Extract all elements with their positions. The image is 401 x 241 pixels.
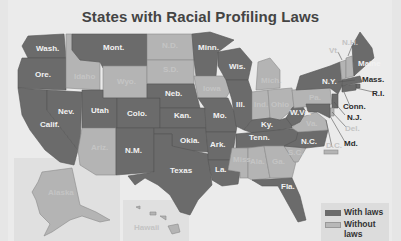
label-wva: W.Va. bbox=[290, 108, 311, 117]
label-va: Va. bbox=[306, 119, 318, 128]
label-ky: Ky. bbox=[261, 120, 273, 129]
label-ala: Ala. bbox=[250, 157, 265, 166]
label-texas: Texas bbox=[170, 166, 193, 175]
label-ariz: Ariz. bbox=[91, 143, 108, 152]
label-nd: N.D. bbox=[162, 41, 178, 50]
label-sd: S.D. bbox=[163, 65, 179, 74]
label-mo: Mo. bbox=[213, 111, 227, 120]
with-laws-swatch bbox=[325, 210, 341, 216]
label-mich: Mich. bbox=[261, 76, 281, 85]
label-pa: Pa. bbox=[309, 93, 321, 102]
label-okla: Okla. bbox=[180, 136, 200, 145]
label-mont: Mont. bbox=[103, 43, 124, 52]
label-ri: R.I. bbox=[372, 89, 384, 98]
label-ill: Ill. bbox=[236, 100, 245, 109]
label-neb: Neb. bbox=[165, 89, 182, 98]
label-dc: D.C. bbox=[326, 141, 342, 150]
label-utah: Utah bbox=[91, 106, 109, 115]
label-kan: Kan. bbox=[174, 111, 191, 120]
state-dc-box bbox=[324, 150, 338, 154]
label-conn: Conn. bbox=[343, 102, 366, 111]
legend-with-label: With laws bbox=[344, 207, 384, 217]
label-md: Md. bbox=[344, 139, 358, 148]
label-mass: Mass. bbox=[362, 75, 384, 84]
label-ny: N.Y. bbox=[322, 77, 337, 86]
label-calif: Calif. bbox=[40, 120, 60, 129]
label-iowa: Iowa bbox=[203, 84, 221, 93]
label-nev: Nev. bbox=[58, 107, 74, 116]
label-tenn: Tenn. bbox=[249, 133, 270, 142]
label-wis: Wis. bbox=[229, 62, 245, 71]
label-vt: Vt. bbox=[329, 46, 339, 55]
label-ohio: Ohio bbox=[271, 100, 289, 109]
label-ga: Ga. bbox=[272, 157, 285, 166]
label-ind: Ind. bbox=[254, 100, 268, 109]
state-mich bbox=[256, 58, 280, 90]
label-idaho: Idaho bbox=[74, 72, 95, 81]
label-nc: N.C. bbox=[301, 137, 317, 146]
label-nj: N.J. bbox=[347, 113, 362, 122]
state-fla bbox=[252, 178, 306, 222]
legend-without-label: Without laws bbox=[344, 219, 384, 239]
label-la: La. bbox=[215, 165, 227, 174]
legend-with-laws: With laws bbox=[325, 207, 384, 217]
label-sc: S.C. bbox=[288, 148, 304, 157]
label-hawaii: Hawaii bbox=[134, 223, 159, 232]
state-ri bbox=[356, 84, 360, 88]
label-nh: N.H. bbox=[342, 38, 358, 47]
label-colo: Colo. bbox=[127, 109, 147, 118]
label-del: Del. bbox=[345, 124, 360, 133]
legend-without-laws: Without laws bbox=[325, 219, 384, 239]
label-maine: Maine bbox=[358, 59, 381, 68]
label-ark: Ark. bbox=[210, 140, 226, 149]
label-wash: Wash. bbox=[36, 44, 59, 53]
label-nm: N.M. bbox=[125, 146, 142, 155]
label-minn: Minn. bbox=[198, 43, 219, 52]
label-alaska: Alaska bbox=[48, 188, 74, 197]
label-fla: Fla. bbox=[281, 182, 295, 191]
without-laws-swatch bbox=[325, 222, 341, 228]
label-ore: Ore. bbox=[35, 70, 51, 79]
legend: With laws Without laws bbox=[321, 203, 389, 241]
label-wyo: Wyo. bbox=[117, 77, 136, 86]
